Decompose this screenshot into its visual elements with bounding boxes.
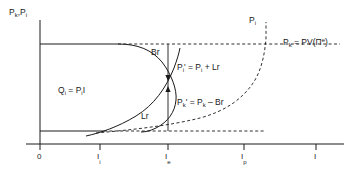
pk-pv-sub: k	[289, 42, 292, 48]
qi-tail: I	[83, 85, 85, 95]
y-axis-label-p1: P	[9, 7, 15, 17]
x-tick-label-ii: Ii	[97, 152, 101, 163]
x-tick-label-i: I	[314, 152, 316, 161]
pi-prime-label: Pi' = Pi + Lr	[177, 63, 220, 72]
y-axis-label: Pk,Pi	[9, 8, 27, 17]
x-tick-label-ie: Ie	[165, 152, 171, 163]
lr-label: Lr	[141, 112, 149, 121]
pk-prime-label: Pk' = Pk – Br	[177, 98, 224, 107]
x-tick-label-ip: Ip	[241, 152, 247, 163]
pk-prime-sub2: k	[203, 102, 206, 108]
pk-pv-p: P	[283, 37, 289, 47]
lr-up-arrow-head	[165, 86, 170, 92]
y-axis-label-p2: P	[20, 7, 26, 17]
x-tick-ie-sub: e	[167, 159, 170, 165]
pi-curve-label-p: P	[249, 15, 255, 25]
pk-prime-mid: ' = P	[186, 97, 203, 107]
pk-pv-label: Pk = PV(Πe)	[283, 38, 328, 47]
x-tick-ip-sub: p	[243, 159, 246, 165]
pk-prime-sub1: k	[183, 102, 186, 108]
pk-prime-tail: – Br	[206, 97, 224, 107]
pk-pv-close: )	[325, 37, 328, 47]
qi-mid: = P	[66, 85, 81, 95]
br-label: Br	[151, 48, 160, 57]
pi-prime-p1: P	[177, 62, 183, 72]
qi-sub1: i	[65, 90, 66, 96]
pk-prime-p1: P	[177, 97, 183, 107]
pi-curve-label: Pi	[249, 16, 256, 25]
x-tick-marks	[40, 144, 316, 150]
pk-pv-rest: = PV(Π	[292, 37, 322, 47]
x-tick-label-0: 0	[37, 152, 41, 161]
pi-curve-label-sub: i	[255, 20, 256, 26]
qi-sub2: i	[81, 90, 82, 96]
pi-prime-sub1: i	[183, 67, 184, 73]
qi-q: Q	[58, 85, 65, 95]
pi-prime-tail: + Lr	[202, 62, 219, 72]
chart-canvas	[0, 0, 358, 172]
y-axis-label-k: k	[15, 12, 18, 18]
pi-dashed-curve	[96, 22, 266, 133]
investment-price-diagram: Pk,Pi Br Lr Pi Pk = PV(Πe) Pi' = Pi + Lr…	[0, 0, 358, 172]
pk-pv-sup: e	[322, 37, 325, 43]
x-tick-ii-sub: i	[99, 159, 100, 165]
y-axis-label-i: i	[26, 12, 27, 18]
qi-label: Qi = PiI	[58, 86, 85, 95]
pi-prime-mid: ' = P	[184, 62, 201, 72]
